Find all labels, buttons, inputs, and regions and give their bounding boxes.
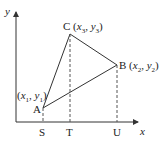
point-a-label: A (33, 104, 41, 115)
tick-s-label: S (39, 127, 45, 138)
triangle-abc (43, 34, 117, 108)
point-c-label: C (x3, y3) (63, 21, 103, 35)
tick-t-label: T (66, 127, 73, 138)
point-b-label: B (x2, y2) (119, 60, 159, 74)
tick-u-label: U (113, 127, 121, 138)
x-axis-label: x (140, 126, 145, 137)
y-axis-label: y (5, 6, 10, 17)
point-a-coords: (x1, y1) (17, 90, 47, 104)
